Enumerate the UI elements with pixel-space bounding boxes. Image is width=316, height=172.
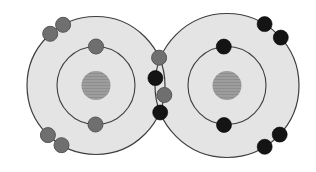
- atom-right-nucleus: [213, 71, 242, 100]
- electron-left-inner: [88, 117, 103, 132]
- shared-electron-right-outer: [148, 71, 163, 86]
- electron-left-outer: [56, 17, 71, 32]
- electron-right-outer: [257, 139, 272, 154]
- electron-right-outer: [272, 127, 287, 142]
- electron-left-outer: [40, 128, 55, 143]
- electron-right-outer: [257, 17, 272, 32]
- electron-right-inner: [216, 39, 231, 54]
- electron-left-inner: [89, 39, 104, 54]
- shared-electron-left-outer: [152, 50, 167, 65]
- electron-left-outer: [43, 26, 58, 41]
- covalent-bond-diagram: [0, 0, 316, 172]
- electron-left-outer: [54, 138, 69, 153]
- atom-left-nucleus: [82, 71, 111, 100]
- bond-diagram-svg: [0, 0, 316, 172]
- shared-electron-left-outer: [157, 88, 172, 103]
- electron-right-inner: [217, 118, 232, 133]
- electron-right-outer: [273, 30, 288, 45]
- shared-electron-right-outer: [153, 105, 168, 120]
